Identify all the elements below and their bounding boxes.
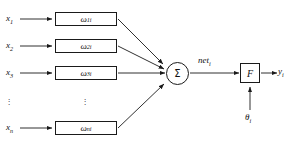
input-label-xn: xn (6, 123, 13, 134)
activation-function-box[interactable]: F (240, 63, 260, 83)
bias-label-theta: θi (245, 113, 251, 124)
net-input-label: neti (198, 56, 211, 67)
weight-box-n[interactable]: ωni (55, 121, 117, 135)
input-label-x3: x3 (6, 68, 13, 79)
weight-to-sum-wire-4 (118, 84, 164, 128)
neuron-diagram: x1 x2 x3 xn ... ω1i ω2i ω3i ωni ... Σ ne… (0, 0, 288, 150)
output-label-y: yi (278, 67, 284, 78)
weight-box-2[interactable]: ω2i (55, 39, 117, 53)
summation-node[interactable]: Σ (166, 62, 189, 85)
weight-box-3[interactable]: ω3i (55, 66, 117, 80)
weight-box-1[interactable]: ω1i (55, 12, 117, 26)
input-label-x1: x1 (6, 14, 13, 25)
weight-column-ellipsis: ... (84, 96, 86, 103)
input-label-x2: x2 (6, 41, 13, 52)
input-column-ellipsis: ... (8, 96, 10, 103)
